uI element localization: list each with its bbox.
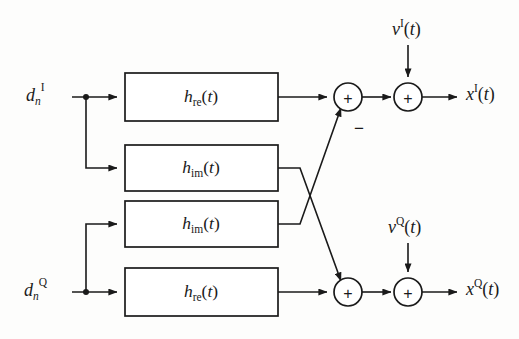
wire-input-q-to-him <box>86 224 117 292</box>
block3-argclose: ) <box>214 213 220 233</box>
output-i-base: x <box>465 84 474 104</box>
block4-base: h <box>184 281 193 301</box>
block-label-h-re-top: hre(t) <box>184 86 218 108</box>
block2-base: h <box>182 157 191 177</box>
adder-i-noise: + <box>394 83 422 111</box>
adder-q-sum-symbol: + <box>343 285 352 302</box>
block-diagram: + + + + <box>0 0 519 339</box>
wire-input-i-to-him <box>86 97 117 168</box>
adder-q-sum: + <box>334 278 362 306</box>
block3-base: h <box>182 213 191 233</box>
noise-i-base: ν <box>392 19 400 39</box>
output-q-argclose: ) <box>493 279 499 300</box>
output-label-q: xQ(t) <box>465 277 499 300</box>
minus-sign-i: − <box>354 119 364 138</box>
adder-q-noise: + <box>394 278 422 306</box>
block3-subscript: im <box>191 223 203 235</box>
noise-label-q: νQ(t) <box>388 215 421 238</box>
input-i-subscript: n <box>35 95 41 107</box>
output-i-argclose: ) <box>489 84 495 105</box>
noise-q-argclose: ) <box>415 217 421 238</box>
noise-q-base: ν <box>388 217 396 237</box>
output-q-base: x <box>465 279 474 299</box>
input-label-i: dnI <box>26 81 45 107</box>
noise-label-i: νI(t) <box>392 17 421 40</box>
adder-i-noise-symbol: + <box>403 90 412 107</box>
block2-argclose: ) <box>214 157 220 177</box>
block4-argclose: ) <box>212 281 218 301</box>
wire-him-lower-cross-to-adder-i <box>278 108 341 224</box>
adder-i-sum: + <box>334 83 362 111</box>
input-i-superscript: I <box>41 81 45 93</box>
adder-i-sum-symbol: + <box>343 90 352 107</box>
block1-subscript: re <box>193 96 202 108</box>
input-q-superscript: Q <box>39 276 48 288</box>
block4-subscript: re <box>193 291 202 303</box>
input-q-subscript: n <box>33 290 39 302</box>
diagram-canvas: + + + + <box>0 0 519 339</box>
output-label-i: xI(t) <box>465 82 495 105</box>
block1-argclose: ) <box>212 86 218 106</box>
block-label-h-re-bottom: hre(t) <box>184 281 218 303</box>
input-label-q: dnQ <box>24 276 48 302</box>
noise-i-argclose: ) <box>415 19 421 40</box>
block2-subscript: im <box>191 167 203 179</box>
block1-base: h <box>184 86 193 106</box>
adder-q-noise-symbol: + <box>403 285 412 302</box>
